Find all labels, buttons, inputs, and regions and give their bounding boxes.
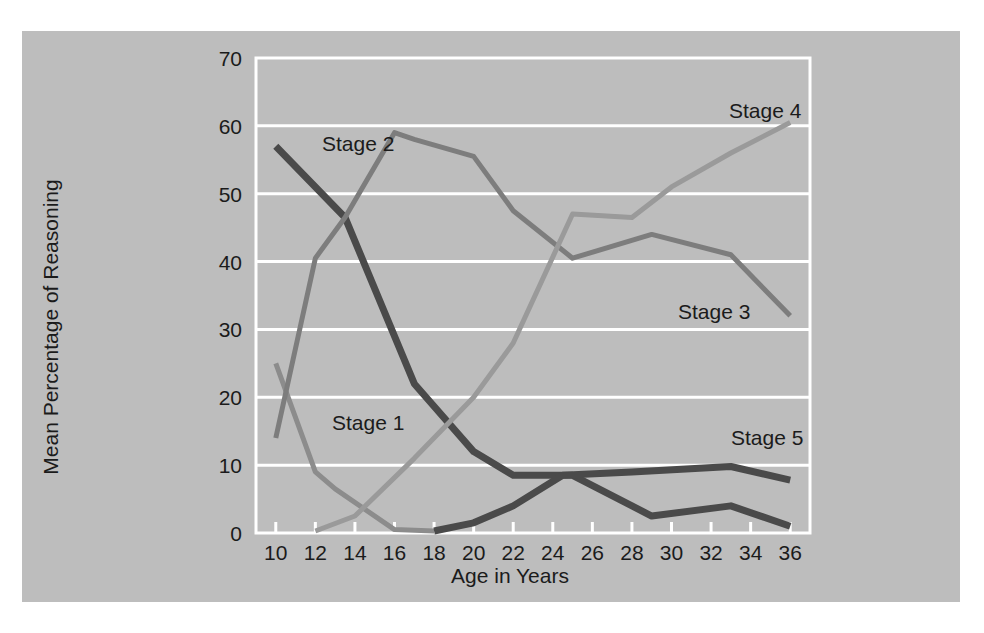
x-tick-label: 16: [383, 541, 406, 564]
x-tick-label: 14: [343, 541, 367, 564]
x-tick-label: 24: [541, 541, 565, 564]
y-tick-label: 20: [219, 386, 242, 409]
x-axis-tick-labels: 1012141618202224262830323436: [264, 541, 802, 564]
x-axis-title: Age in Years: [451, 564, 569, 587]
x-tick-label: 30: [660, 541, 683, 564]
x-tick-label: 18: [422, 541, 445, 564]
x-tick-label: 22: [502, 541, 525, 564]
x-tick-label: 20: [462, 541, 485, 564]
series-label-stage-5: Stage 5: [731, 426, 803, 449]
series-line-stage-1: [276, 363, 434, 531]
y-tick-label: 70: [219, 47, 242, 70]
series-lines: [276, 122, 790, 531]
series-label-stage-1: Stage 1: [332, 411, 404, 434]
y-axis-tick-labels: 010203040506070: [219, 47, 242, 545]
y-axis-title: Mean Percentage of Reasoning: [39, 179, 62, 474]
y-tick-label: 50: [219, 183, 242, 206]
y-tick-label: 10: [219, 454, 242, 477]
y-tick-label: 30: [219, 318, 242, 341]
x-tick-label: 28: [620, 541, 643, 564]
x-tick-label: 32: [699, 541, 722, 564]
series-label-stage-2: Stage 2: [322, 132, 394, 155]
x-tick-label: 12: [304, 541, 327, 564]
x-tick-label: 10: [264, 541, 287, 564]
x-axis-tickmarks: [276, 522, 790, 533]
x-tick-label: 26: [581, 541, 604, 564]
y-tick-label: 40: [219, 251, 242, 274]
x-tick-label: 34: [739, 541, 763, 564]
series-line-stage-3: [276, 133, 790, 438]
chart-panel: 010203040506070 101214161820222426283032…: [22, 31, 960, 602]
y-tick-label: 0: [230, 522, 242, 545]
y-tick-label: 60: [219, 115, 242, 138]
series-label-stage-4: Stage 4: [729, 99, 802, 122]
x-tick-label: 36: [779, 541, 802, 564]
line-chart: 010203040506070 101214161820222426283032…: [22, 31, 960, 602]
figure-root: 010203040506070 101214161820222426283032…: [0, 0, 984, 633]
series-label-stage-3: Stage 3: [678, 300, 750, 323]
